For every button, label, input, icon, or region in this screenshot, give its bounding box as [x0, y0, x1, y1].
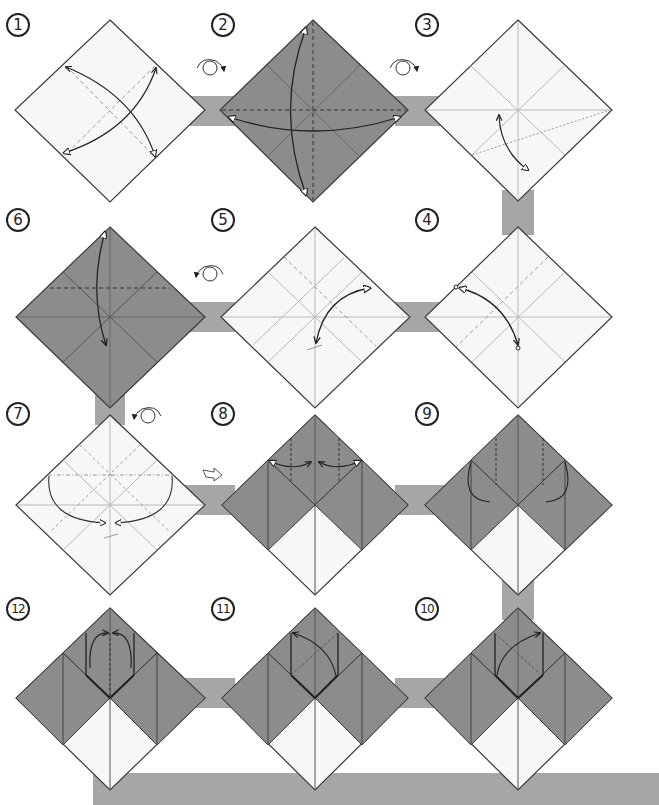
- step-number-9: 9: [415, 402, 439, 426]
- step-number-5: 5: [211, 208, 235, 232]
- step-1-diagram: [15, 20, 205, 202]
- step-number-10: 10: [415, 597, 439, 621]
- turn-over-icon: [134, 408, 161, 423]
- turn-over-icon: [196, 266, 223, 281]
- step-7-diagram: [16, 415, 205, 595]
- step-number-7: 7: [6, 402, 30, 426]
- step-4-diagram: [425, 227, 612, 408]
- step-number-8: 8: [211, 402, 235, 426]
- step-10-diagram: [425, 608, 612, 790]
- step-11-diagram: [222, 608, 408, 790]
- step-3-diagram: [425, 20, 612, 201]
- connector-bottom-band: [93, 773, 659, 805]
- step-2-diagram: [220, 20, 408, 202]
- step-number-3: 3: [415, 13, 439, 37]
- result-arrow-icon: [203, 468, 222, 481]
- turn-over-icon: [390, 60, 417, 75]
- step-6-diagram: [16, 227, 205, 408]
- step-number-1: 1: [6, 13, 30, 37]
- step-number-6: 6: [6, 208, 30, 232]
- step-9-diagram: [425, 415, 612, 595]
- step-number-12: 12: [6, 597, 30, 621]
- turn-over-icon: [197, 60, 224, 75]
- origami-diagram: [0, 0, 659, 805]
- step-number-11: 11: [211, 597, 235, 621]
- step-8-diagram: [222, 415, 408, 595]
- step-number-4: 4: [415, 208, 439, 232]
- step-number-2: 2: [211, 13, 235, 37]
- step-12-diagram: [16, 608, 205, 790]
- step-5-diagram: [221, 227, 410, 408]
